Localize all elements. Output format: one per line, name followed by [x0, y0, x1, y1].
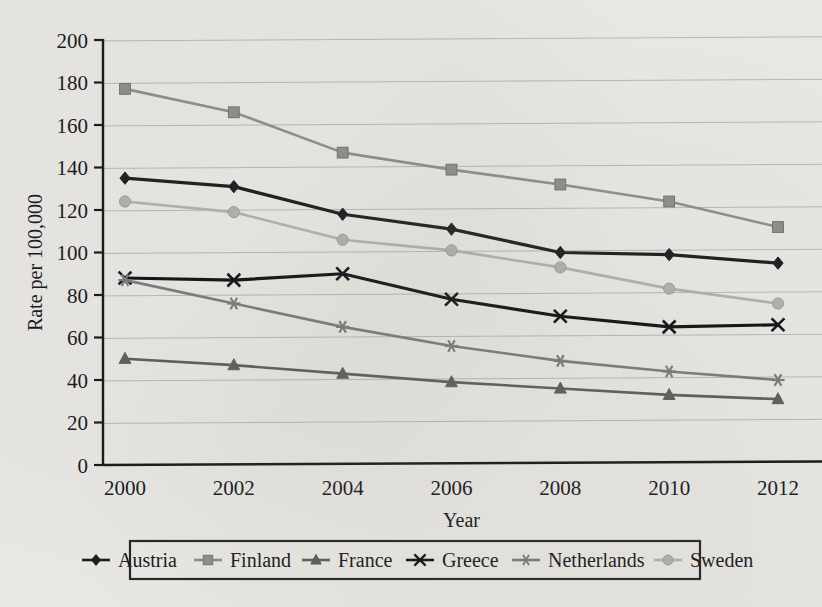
- marker-circle: [663, 555, 673, 565]
- marker-asterisk: [554, 355, 567, 366]
- marker-square: [203, 555, 213, 565]
- legend-item-austria[interactable]: Austria: [82, 549, 177, 571]
- marker-asterisk: [445, 340, 458, 351]
- legend-item-netherlands[interactable]: Netherlands: [512, 549, 645, 571]
- y-tick-label: 140: [57, 156, 89, 180]
- gridline: [103, 334, 822, 338]
- gridline: [103, 79, 822, 83]
- y-tick-label: 0: [78, 454, 89, 478]
- marker-circle: [228, 207, 239, 218]
- gridline: [103, 122, 822, 126]
- legend-item-greece[interactable]: Greece: [406, 549, 499, 571]
- figure: 020406080100120140160180200Rate per 100,…: [0, 0, 822, 607]
- marker-circle: [555, 262, 566, 273]
- series-group: [118, 83, 784, 403]
- gridline: [103, 377, 822, 381]
- marker-circle: [664, 283, 675, 294]
- y-tick-label: 120: [57, 199, 89, 223]
- legend-label: Netherlands: [548, 549, 645, 571]
- x-tick-label: 2000: [104, 476, 146, 500]
- legend-item-finland[interactable]: Finland: [194, 549, 291, 571]
- series-line: [125, 89, 778, 227]
- line-chart: 020406080100120140160180200Rate per 100,…: [0, 0, 822, 607]
- marker-diamond: [555, 246, 565, 258]
- legend-label: Sweden: [690, 549, 753, 571]
- marker-circle: [772, 298, 783, 309]
- legend-label: Austria: [118, 549, 177, 571]
- marker-diamond: [229, 180, 239, 192]
- y-axis-title: Rate per 100,000: [24, 194, 47, 331]
- y-tick-label: 40: [67, 369, 88, 393]
- x-axis-title: Year: [443, 509, 480, 531]
- x-tick-label: 2010: [648, 476, 690, 500]
- marker-circle: [119, 196, 130, 207]
- x-tick-label: 2008: [539, 476, 581, 500]
- legend-item-france[interactable]: France: [302, 549, 393, 571]
- marker-square: [555, 179, 566, 190]
- legend-label: Greece: [442, 549, 499, 571]
- marker-square: [664, 196, 675, 207]
- y-tick-label: 160: [57, 114, 89, 138]
- legend: AustriaFinlandFranceGreeceNetherlandsSwe…: [82, 541, 753, 579]
- gridline: [103, 164, 822, 168]
- y-tick-label: 60: [67, 326, 88, 350]
- y-tick-label: 20: [67, 411, 88, 435]
- marker-asterisk: [227, 298, 240, 309]
- x-tick-label: 2002: [213, 476, 255, 500]
- gridline: [103, 37, 822, 41]
- y-tick-label: 100: [57, 241, 89, 265]
- legend-label: Finland: [230, 549, 291, 571]
- marker-square: [120, 83, 131, 94]
- x-tick-label: 2004: [322, 476, 365, 500]
- marker-diamond: [92, 555, 101, 566]
- marker-square: [446, 164, 457, 175]
- legend-label: France: [338, 549, 393, 571]
- marker-diamond: [446, 223, 456, 235]
- marker-asterisk: [520, 555, 532, 565]
- marker-circle: [337, 234, 348, 245]
- marker-square: [773, 222, 784, 233]
- marker-asterisk: [663, 366, 676, 377]
- x-tick-label: 2012: [757, 476, 799, 500]
- y-tick-label: 180: [57, 71, 89, 95]
- marker-asterisk: [336, 321, 349, 332]
- x-axis-spine: [103, 462, 822, 466]
- marker-square: [337, 147, 348, 158]
- x-tick-label: 2006: [431, 476, 473, 500]
- y-tick-label: 80: [67, 284, 88, 308]
- x-axis: 2000200220042006200820102012: [104, 476, 799, 500]
- y-axis: 020406080100120140160180200: [57, 29, 104, 478]
- marker-square: [228, 107, 239, 118]
- marker-asterisk: [771, 374, 784, 385]
- marker-diamond: [120, 172, 130, 184]
- marker-diamond: [773, 257, 783, 269]
- y-tick-label: 200: [57, 29, 89, 53]
- gridline: [103, 419, 822, 423]
- legend-item-sweden[interactable]: Sweden: [654, 549, 753, 571]
- marker-circle: [446, 245, 457, 256]
